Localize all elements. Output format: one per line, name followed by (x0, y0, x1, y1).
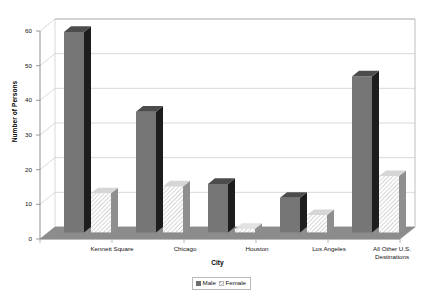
y-tick-label-50: 50 (10, 62, 32, 69)
bar-female-kennett-square (91, 188, 118, 233)
bar-chart: Number of Persons City (0, 0, 435, 303)
y-tick-label-20: 20 (10, 166, 32, 173)
x-tick-label-all-other-line1: All Other U.S. (352, 245, 432, 253)
legend: Male Female (192, 277, 251, 290)
legend-item-male[interactable]: Male (196, 279, 216, 287)
bar-male-kennett-square (64, 26, 91, 232)
bar-female-all-other (379, 170, 406, 232)
bar-female-los-angeles (307, 210, 334, 233)
y-tick-marks (36, 31, 40, 239)
y-tick-label-0: 0 (10, 235, 32, 242)
bar-female-chicago (163, 181, 190, 233)
y-tick-label-10: 10 (10, 200, 32, 207)
y-tick-label-60: 60 (10, 27, 32, 34)
bar-male-los-angeles (280, 192, 307, 232)
bar-male-chicago (136, 106, 163, 232)
y-tick-label-30: 30 (10, 131, 32, 138)
y-tick-label-40: 40 (10, 96, 32, 103)
bar-male-all-other (352, 71, 379, 233)
legend-item-female[interactable]: Female (219, 279, 246, 287)
female-swatch-icon (219, 281, 224, 286)
legend-label-female: Female (225, 279, 246, 287)
male-swatch-icon (196, 281, 201, 286)
bar-male-houston (208, 178, 235, 232)
legend-label-male: Male (203, 279, 216, 287)
depth-wall (40, 19, 55, 239)
x-tick-label-all-other-line2: Destinations (352, 253, 432, 261)
x-tick-marks (40, 239, 400, 243)
